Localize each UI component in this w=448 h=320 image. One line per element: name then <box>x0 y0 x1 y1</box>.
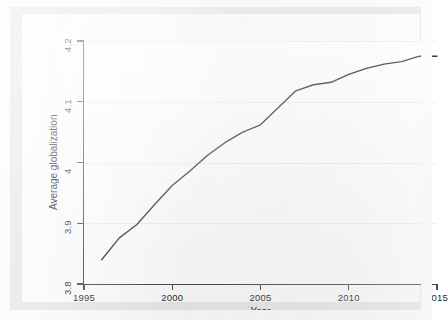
x-tick-label-2010: 2010 <box>338 292 360 303</box>
plot-area <box>84 41 437 284</box>
y-axis-line <box>83 40 84 285</box>
y-tick-3.9 <box>77 223 83 224</box>
y-tick-4.1 <box>77 101 83 102</box>
x-tick-label-2005: 2005 <box>250 292 272 303</box>
data-series-svg <box>84 41 437 284</box>
y-axis-title: Average globalization <box>48 14 59 311</box>
y-tick-label-3.9: 3.9 <box>62 212 73 234</box>
x-tick-label-2000: 2000 <box>161 292 183 303</box>
page-margin-right <box>421 0 432 320</box>
y-tick-4.2 <box>77 40 83 41</box>
page-margin-top <box>0 0 432 7</box>
page-margin-left <box>0 0 10 320</box>
y-tick-label-4: 4 <box>62 152 73 174</box>
x-tick-label-1995: 1995 <box>73 292 95 303</box>
x-tick-2005 <box>260 285 261 290</box>
x-tick-2000 <box>172 285 173 290</box>
y-tick-3.8 <box>77 283 83 284</box>
chart-canvas: 3.83.944.14.2 19952000200520102015 Avera… <box>22 14 420 302</box>
y-tick-label-4.2: 4.2 <box>62 30 73 52</box>
x-tick-2010 <box>348 285 349 290</box>
y-tick-label-4.1: 4.1 <box>62 91 73 113</box>
line-series-average-globalization <box>102 56 437 260</box>
page-margin-bottom <box>0 310 432 320</box>
y-tick-4 <box>77 162 83 163</box>
x-tick-2015 <box>436 285 437 290</box>
x-tick-1995 <box>83 285 84 290</box>
y-tick-label-3.8: 3.8 <box>62 273 73 295</box>
